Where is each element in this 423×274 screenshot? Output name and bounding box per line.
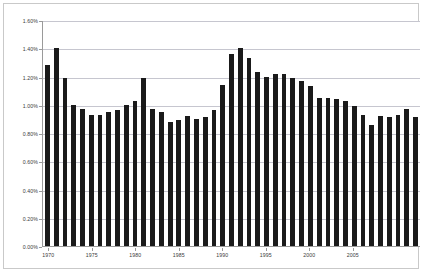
- bar: [98, 115, 103, 246]
- bar: [212, 110, 217, 246]
- bar: [185, 116, 190, 246]
- bar: [89, 115, 94, 246]
- bar: [334, 99, 339, 246]
- x-axis: 19701975198019851990199520002005: [42, 248, 420, 266]
- plot-area: [42, 21, 420, 247]
- bar: [352, 106, 357, 246]
- x-tick-label: 1970: [42, 252, 54, 258]
- x-tick-mark: [266, 248, 267, 251]
- x-tick-mark: [48, 248, 49, 251]
- bar: [247, 58, 252, 246]
- bar: [369, 125, 374, 246]
- y-axis: 0.00%0.20%0.40%0.60%0.80%1.00%1.20%1.40%…: [4, 4, 42, 264]
- bar: [194, 119, 199, 246]
- bar: [229, 54, 234, 246]
- bar: [159, 112, 164, 246]
- bar: [413, 117, 418, 246]
- x-tick-label: 1995: [260, 252, 272, 258]
- bar: [141, 78, 146, 246]
- y-tick-label: 0.40%: [23, 188, 38, 194]
- bar: [317, 98, 322, 246]
- bar: [326, 98, 331, 246]
- bar: [343, 101, 348, 246]
- chart-outer-frame: 0.00%0.20%0.40%0.60%0.80%1.00%1.20%1.40%…: [3, 3, 419, 269]
- y-tick-label: 0.20%: [23, 216, 38, 222]
- x-tick-mark: [309, 248, 310, 251]
- bar: [255, 72, 260, 246]
- bar: [308, 86, 313, 246]
- bar: [115, 110, 120, 246]
- bar: [168, 122, 173, 246]
- bar: [80, 109, 85, 246]
- bar: [176, 120, 181, 246]
- bar: [54, 48, 59, 246]
- bar: [396, 115, 401, 246]
- bar: [106, 112, 111, 246]
- bar: [273, 74, 278, 246]
- x-tick-mark: [353, 248, 354, 251]
- x-tick-label: 1990: [216, 252, 228, 258]
- y-tick-label: 0.00%: [23, 244, 38, 250]
- bar: [238, 48, 243, 246]
- y-tick-label: 0.60%: [23, 159, 38, 165]
- bar: [387, 117, 392, 246]
- bar: [150, 109, 155, 246]
- x-tick-label: 2005: [347, 252, 359, 258]
- y-tick-label: 1.40%: [23, 46, 38, 52]
- x-tick-mark: [92, 248, 93, 251]
- bar: [220, 85, 225, 246]
- bar: [133, 101, 138, 246]
- x-tick-label: 1980: [129, 252, 141, 258]
- bar: [63, 78, 68, 246]
- y-tick-label: 1.20%: [23, 75, 38, 81]
- bar-chart-figure: 0.00%0.20%0.40%0.60%0.80%1.00%1.20%1.40%…: [0, 0, 423, 274]
- x-tick-mark: [179, 248, 180, 251]
- bar: [71, 105, 76, 246]
- bar: [282, 74, 287, 246]
- bar: [124, 105, 129, 246]
- x-tick-mark: [222, 248, 223, 251]
- y-tick-label: 1.00%: [23, 103, 38, 109]
- bar: [203, 117, 208, 246]
- bar: [290, 78, 295, 246]
- bar: [378, 116, 383, 246]
- x-tick-label: 1975: [86, 252, 98, 258]
- bar: [361, 115, 366, 246]
- y-tick-label: 1.60%: [23, 18, 38, 24]
- bar-series: [43, 21, 420, 246]
- y-tick-label: 0.80%: [23, 131, 38, 137]
- bar: [299, 81, 304, 246]
- x-tick-mark: [135, 248, 136, 251]
- bar: [264, 77, 269, 247]
- x-tick-label: 2000: [303, 252, 315, 258]
- bar: [45, 65, 50, 246]
- x-tick-label: 1985: [173, 252, 185, 258]
- bar: [404, 109, 409, 246]
